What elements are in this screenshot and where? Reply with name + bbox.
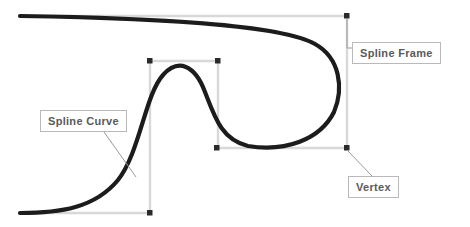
callout-spline-frame-label: Spline Frame [360, 48, 433, 59]
inner-spline-frame [20, 61, 218, 213]
callout-vertex-label: Vertex [356, 182, 391, 193]
leader-lines [104, 18, 373, 177]
callout-spline-frame[interactable]: Spline Frame [352, 42, 441, 64]
callout-vertex[interactable]: Vertex [348, 176, 399, 198]
vertex-square-icon[interactable] [215, 58, 221, 64]
vertex-leader-line [347, 150, 373, 177]
vertex-markers [147, 13, 350, 216]
callout-spline-curve-label: Spline Curve [48, 116, 119, 127]
vertex-square-icon[interactable] [344, 145, 350, 151]
vertex-square-icon[interactable] [147, 210, 153, 216]
vertex-square-icon[interactable] [344, 13, 350, 19]
vertex-square-icon[interactable] [147, 58, 153, 64]
diagram-canvas: Spline Frame Spline Curve Vertex [0, 0, 470, 227]
vertex-square-icon[interactable] [214, 145, 220, 151]
callout-spline-curve[interactable]: Spline Curve [40, 110, 127, 132]
